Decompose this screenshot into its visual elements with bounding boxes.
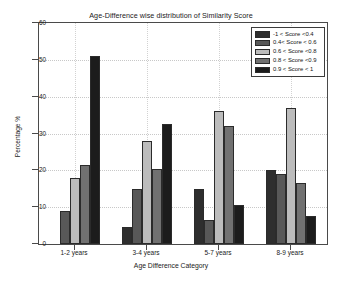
x-tick-mark <box>290 245 291 250</box>
legend-swatch <box>255 40 270 46</box>
legend-swatch <box>255 67 270 73</box>
bar <box>60 211 70 244</box>
bar <box>234 205 244 244</box>
y-tick-mark <box>32 133 38 134</box>
legend-label: 0.8 < Score <0.9 <box>273 58 317 64</box>
legend-item[interactable]: 0.4< Score < 0.6 <box>255 39 321 47</box>
bar <box>286 108 296 244</box>
x-tick-label: 3-4 years <box>132 249 159 256</box>
bar <box>306 216 316 244</box>
legend-swatch <box>255 58 270 64</box>
legend-item[interactable]: -1 < Score <0.4 <box>255 30 321 38</box>
bar <box>214 111 224 244</box>
y-tick-mark <box>32 59 38 60</box>
y-tick-mark <box>32 169 38 170</box>
bar <box>296 183 306 244</box>
y-tick-mark <box>32 22 38 23</box>
bar <box>80 165 90 244</box>
legend-swatch <box>255 49 270 55</box>
bar <box>276 174 286 244</box>
bar <box>70 178 80 244</box>
x-tick-mark <box>218 245 219 250</box>
y-axis-label: Percentage % <box>14 92 21 182</box>
legend: -1 < Score <0.40.4< Score < 0.60.6 < Sco… <box>251 27 325 77</box>
bar <box>132 189 142 244</box>
legend-item[interactable]: 0.6 < Score <0.8 <box>255 48 321 56</box>
x-axis-label: Age Difference Category <box>0 262 342 269</box>
bar <box>122 227 132 244</box>
bar <box>142 141 152 244</box>
x-tick-label: 1-2 years <box>60 249 87 256</box>
x-tick-mark <box>146 245 147 250</box>
legend-item[interactable]: 0.8 < Score <0.9 <box>255 57 321 65</box>
x-tick-label: 8-9 years <box>276 249 303 256</box>
legend-item[interactable]: 0.9 < Score < 1 <box>255 66 321 74</box>
bar <box>224 126 234 244</box>
legend-label: 0.9 < Score < 1 <box>273 67 313 73</box>
x-tick-mark <box>74 245 75 250</box>
legend-label: -1 < Score <0.4 <box>273 32 314 38</box>
x-tick-label: 5-7 years <box>204 249 231 256</box>
legend-label: 0.6 < Score <0.8 <box>273 49 317 55</box>
legend-swatch <box>255 31 270 37</box>
bar <box>90 56 100 244</box>
y-tick-mark <box>32 96 38 97</box>
bar <box>152 169 162 245</box>
bar <box>204 220 214 244</box>
gridline <box>39 97 327 98</box>
bar <box>266 170 276 244</box>
y-tick-mark <box>32 206 38 207</box>
bar <box>162 124 172 244</box>
y-tick-mark <box>32 243 38 244</box>
chart-title: Age-Difference wise distribution of Simi… <box>0 11 342 20</box>
chart-figure: Age-Difference wise distribution of Simi… <box>0 0 342 289</box>
legend-label: 0.4< Score < 0.6 <box>273 40 317 46</box>
bar <box>194 189 204 244</box>
gridline <box>39 134 327 135</box>
